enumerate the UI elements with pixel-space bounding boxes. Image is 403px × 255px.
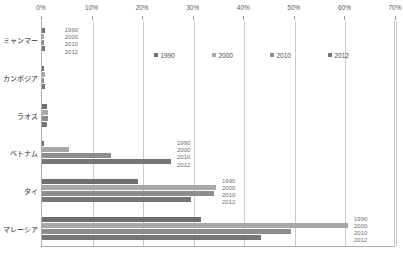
x-tick-label: 60%	[338, 4, 351, 11]
x-tick-mark	[344, 16, 345, 20]
bar	[42, 34, 44, 39]
gridline	[244, 21, 245, 246]
gridline	[143, 21, 144, 246]
x-tick-mark	[193, 16, 194, 20]
year-annotation-group: 1990200020102012	[354, 216, 367, 244]
bar	[42, 28, 45, 33]
legend-label: 2012	[335, 52, 349, 59]
legend-item[interactable]: 1990	[154, 52, 175, 60]
x-tick-mark	[294, 16, 295, 20]
bar	[42, 104, 47, 109]
year-annotation-label: 1990	[354, 216, 367, 223]
bar	[42, 147, 69, 152]
bar	[42, 223, 348, 228]
year-annotation-group: 1990200020102012	[177, 140, 190, 168]
year-annotation-group: 1990200020102012	[65, 27, 78, 55]
y-category-label: マレーシア	[0, 224, 38, 234]
bar	[42, 40, 44, 45]
bar	[42, 153, 111, 158]
x-tick-mark	[92, 16, 93, 20]
bar	[42, 46, 45, 51]
bar	[42, 159, 171, 164]
y-category-label: ミャンマー	[0, 35, 38, 45]
x-tick-label: 40%	[237, 4, 250, 11]
year-annotation-label: 2012	[222, 199, 235, 206]
bar	[42, 110, 48, 115]
legend-label: 2000	[219, 52, 233, 59]
year-annotation-label: 2012	[177, 162, 190, 169]
bar	[42, 122, 47, 127]
year-annotation-label: 2010	[65, 41, 78, 48]
legend-swatch-icon	[154, 53, 158, 57]
x-tick-label: 30%	[186, 4, 199, 11]
x-tick-mark	[243, 16, 244, 20]
bar	[42, 235, 261, 240]
bar	[42, 116, 48, 121]
year-annotation-label: 2010	[222, 192, 235, 199]
bar	[42, 84, 45, 89]
x-tick-mark	[395, 16, 396, 20]
x-tick-label: 50%	[287, 4, 300, 11]
year-annotation-label: 2010	[354, 230, 367, 237]
legend-swatch-icon	[270, 53, 274, 57]
x-tick-mark	[41, 16, 42, 20]
gridline	[295, 21, 296, 246]
bar	[42, 197, 191, 202]
plot-area: 1990200020102012199020002010201219902000…	[41, 21, 395, 247]
chart-container: 0%10%20%30%40%50%60%70% ミャンマーカンボジアラオスベトナ…	[0, 0, 403, 255]
gridline	[194, 21, 195, 246]
x-tick-label: 0%	[36, 4, 45, 11]
year-annotation-label: 1990	[222, 178, 235, 185]
year-annotation-label: 1990	[177, 140, 190, 147]
legend-swatch-icon	[328, 53, 332, 57]
year-annotation-label: 2000	[222, 185, 235, 192]
x-tick-mark	[142, 16, 143, 20]
year-annotation-label: 2000	[65, 34, 78, 41]
x-tick-label: 20%	[136, 4, 149, 11]
y-category-label: タイ	[0, 186, 38, 196]
y-category-label: カンボジア	[0, 73, 38, 83]
bar	[42, 191, 214, 196]
year-annotation-label: 2000	[354, 223, 367, 230]
year-annotation-label: 2012	[354, 237, 367, 244]
bar	[42, 179, 138, 184]
bar	[42, 217, 201, 222]
legend-item[interactable]: 2010	[270, 52, 291, 60]
y-category-label: ラオス	[0, 111, 38, 121]
year-annotation-label: 2012	[65, 49, 78, 56]
bar	[42, 66, 44, 71]
gridline	[396, 21, 397, 246]
legend-label: 2010	[277, 52, 291, 59]
bar	[42, 229, 291, 234]
x-tick-label: 10%	[85, 4, 98, 11]
y-category-label: ベトナム	[0, 148, 38, 158]
gridline	[93, 21, 94, 246]
bar	[42, 141, 44, 146]
x-tick-label: 70%	[388, 4, 401, 11]
legend-swatch-icon	[212, 53, 216, 57]
bar	[42, 78, 44, 83]
legend-item[interactable]: 2012	[328, 52, 349, 60]
bar	[42, 72, 45, 77]
year-annotation-label: 1990	[65, 27, 78, 34]
legend-item[interactable]: 2000	[212, 52, 233, 60]
bar	[42, 185, 216, 190]
year-annotation-label: 2010	[177, 154, 190, 161]
year-annotation-group: 1990200020102012	[222, 178, 235, 206]
year-annotation-label: 2000	[177, 147, 190, 154]
legend-label: 1990	[161, 52, 175, 59]
